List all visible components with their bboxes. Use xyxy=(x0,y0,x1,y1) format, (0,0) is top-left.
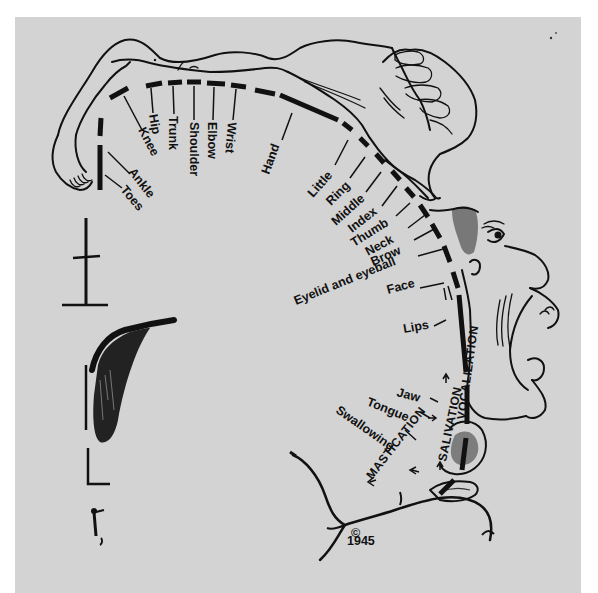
copyright-mark: © 1945 xyxy=(347,526,375,548)
homunculus-body-drawing xyxy=(52,39,476,200)
label-lips: Lips xyxy=(402,318,430,336)
copyright-year: 1945 xyxy=(347,534,375,548)
homunculus-figure-panel: Toes Ankle Knee Hip Trunk Shoulder Elbow… xyxy=(15,17,581,593)
label-eyelid-and-eyeball: Eyelid and eyeball xyxy=(292,254,398,308)
motor-homunculus-diagram: Toes Ankle Knee Hip Trunk Shoulder Elbow… xyxy=(0,0,598,593)
label-wrist: Wrist xyxy=(222,122,239,155)
label-shoulder: Shoulder xyxy=(187,122,201,176)
label-face: Face xyxy=(385,276,416,297)
label-hand: Hand xyxy=(259,142,283,176)
cortex-cross-section-glyphs xyxy=(62,218,174,545)
label-jaw: Jaw xyxy=(395,385,422,405)
label-trunk: Trunk xyxy=(166,116,180,150)
label-elbow: Elbow xyxy=(205,122,219,159)
body-part-labels: Toes Ankle Knee Hip Trunk Shoulder Elbow… xyxy=(118,113,482,482)
